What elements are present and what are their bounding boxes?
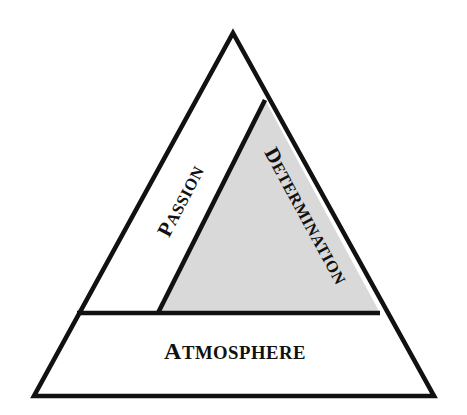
segment-label-atmosphere-rest: TMOSPHERE [182,342,306,363]
segment-label-atmosphere: ATMOSPHERE [164,339,306,363]
pyramid-diagram: PASSION DETERMINATION ATMOSPHERE [0,0,467,415]
segment-label-atmosphere-initial: A [164,338,182,364]
